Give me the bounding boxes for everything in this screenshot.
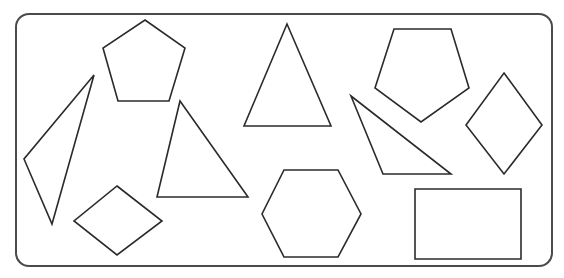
inverted-pentagon: [375, 29, 469, 122]
middle-triangle: [157, 101, 248, 197]
tall-isosceles-triangle: [244, 24, 331, 126]
shapes-figure: [0, 0, 564, 278]
bottom-left-rhombus: [74, 186, 162, 255]
right-rhombus: [466, 73, 542, 174]
shapes-layer: [24, 20, 542, 259]
hexagon: [262, 170, 361, 257]
left-scalene-triangle: [24, 75, 94, 224]
top-left-pentagon: [103, 20, 185, 101]
shapes-canvas: [0, 0, 564, 278]
rectangle: [415, 189, 521, 259]
rounded-frame: [16, 14, 552, 266]
